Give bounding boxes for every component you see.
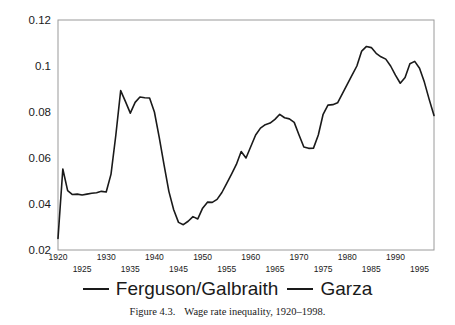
- x-axis-tick-label: 1965: [265, 264, 284, 274]
- x-axis-tick-label: 1980: [338, 252, 357, 262]
- x-axis-tick-label: 1970: [290, 252, 309, 262]
- x-axis-tick-label: 1945: [169, 264, 188, 274]
- legend-item-ferguson-galbraith: Ferguson/Galbraith: [83, 279, 279, 299]
- y-axis-tick-label: 0.12: [29, 14, 51, 26]
- y-axis-tick-label: 0.08: [29, 106, 51, 118]
- x-axis-tick-label: 1985: [362, 264, 381, 274]
- figure-caption: Figure 4.3.Wage rate inequality, 1920–19…: [0, 306, 455, 317]
- x-axis-tick-label: 1925: [73, 264, 92, 274]
- figure-caption-number: Figure 4.3.: [130, 306, 176, 317]
- chart-legend: Ferguson/Galbraith Garza: [0, 276, 455, 302]
- y-axis-tick-label: 0.04: [29, 198, 52, 210]
- chart-plot-area: 0.020.040.060.080.10.12 1920193019401950…: [0, 0, 455, 275]
- x-axis-tick-label: 1935: [121, 264, 140, 274]
- x-axis-tick-label: 1975: [314, 264, 333, 274]
- x-axis-tick-label: 1940: [145, 252, 164, 262]
- x-axis-tick-label: 1920: [49, 252, 68, 262]
- line-chart: 0.020.040.060.080.10.12 1920193019401950…: [0, 0, 455, 275]
- figure-container: 0.020.040.060.080.10.12 1920193019401950…: [0, 0, 455, 325]
- x-axis-tick-label: 1955: [217, 264, 236, 274]
- line-dash-icon: [83, 288, 109, 290]
- series-line-wage-inequality: [58, 46, 434, 238]
- y-axis-tick-label: 0.06: [29, 152, 51, 164]
- x-axis-tick-label: 1930: [97, 252, 116, 262]
- legend-label-ferguson-galbraith: Ferguson/Galbraith: [116, 279, 279, 299]
- line-dash-icon: [287, 288, 313, 290]
- x-axis-tick-label: 1995: [410, 264, 429, 274]
- legend-item-garza: Garza: [287, 279, 372, 299]
- x-axis-tick-label: 1990: [386, 252, 405, 262]
- figure-caption-text: Wage rate inequality, 1920–1998.: [184, 306, 325, 317]
- y-axis-tick-labels: 0.020.040.060.080.10.12: [29, 14, 52, 256]
- legend-label-garza: Garza: [320, 279, 372, 299]
- x-axis-tick-labels: 1920193019401950196019701980199019251935…: [49, 252, 430, 274]
- y-axis-tick-label: 0.1: [35, 60, 51, 72]
- x-axis-tick-label: 1950: [193, 252, 212, 262]
- x-axis-tick-label: 1960: [241, 252, 260, 262]
